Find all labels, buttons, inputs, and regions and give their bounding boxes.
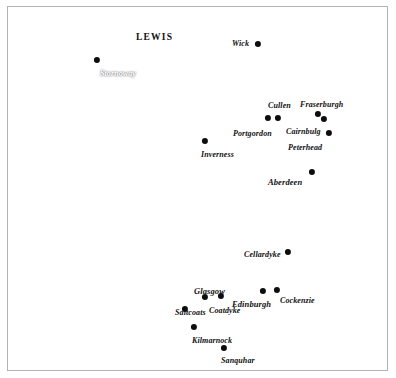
city-label-edinburgh: Edinburgh bbox=[232, 300, 271, 309]
city-label-fraserburgh: Fraserburgh bbox=[300, 101, 343, 109]
city-label-wick: Wick bbox=[232, 40, 249, 48]
city-label-cairnbulg: Cairnbulg bbox=[286, 128, 321, 136]
city-label-cullen: Cullen bbox=[268, 102, 291, 110]
city-label-kilmarnock: Kilmarnock bbox=[192, 337, 232, 345]
city-label-aberdeen: Aberdeen bbox=[268, 178, 302, 187]
city-label-portgordon: Portgordon bbox=[233, 130, 272, 138]
city-label-cellardyke: Cellardyke bbox=[244, 251, 281, 259]
map-figure: LEWIS StornowayWickCullenFraserburghPort… bbox=[0, 0, 396, 378]
city-label-sanquhar: Sanquhar bbox=[221, 357, 255, 365]
city-label-inverness: Inverness bbox=[201, 151, 234, 159]
city-label-cockenzie: Cockenzie bbox=[280, 297, 315, 305]
region-label-lewis: LEWIS bbox=[136, 33, 173, 43]
city-label-stornoway: Stornoway bbox=[100, 70, 136, 78]
city-label-saltcoats: Saltcoats bbox=[175, 309, 206, 317]
city-label-peterhead: Peterhead bbox=[288, 144, 322, 152]
